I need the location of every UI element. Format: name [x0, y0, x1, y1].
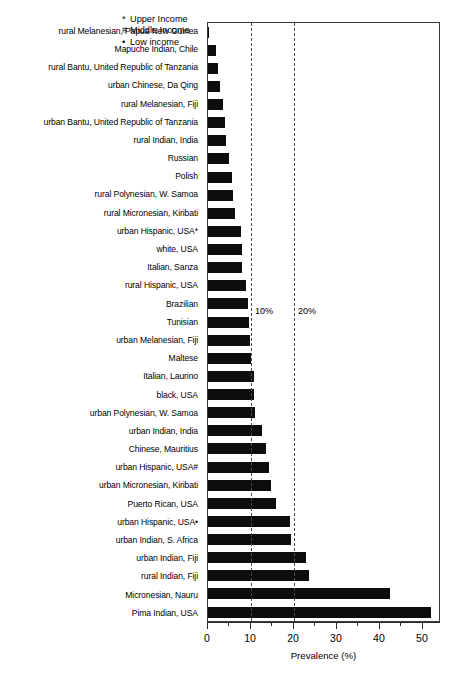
bar-row — [208, 349, 439, 367]
category-label: Italian, Sanza — [0, 258, 203, 276]
bar — [208, 81, 220, 92]
category-label: Polish — [0, 168, 203, 186]
bar-row — [208, 603, 439, 621]
bar-row — [208, 222, 439, 240]
category-label: rural Hispanic, USA — [0, 277, 203, 295]
plot-area: 10%20% — [207, 22, 440, 622]
bar-row — [208, 259, 439, 277]
bar — [208, 280, 246, 291]
category-label: rural Indian, India — [0, 131, 203, 149]
legend-label: Upper Income — [130, 14, 188, 24]
category-label: white, USA — [0, 240, 203, 258]
category-label: urban Bantu, United Republic of Tanzania — [0, 113, 203, 131]
bar — [208, 244, 242, 255]
x-tick — [250, 622, 251, 629]
bar — [208, 262, 242, 273]
x-axis-title: Prevalence (%) — [207, 650, 440, 661]
legend-item: #Middle Income — [122, 25, 190, 36]
bar — [208, 407, 255, 418]
category-label: Micronesian, Nauru — [0, 586, 203, 604]
bar — [208, 371, 254, 382]
reference-line — [251, 23, 252, 621]
category-axis-labels: rural Melanesian, Papua New GuineaMapuch… — [0, 22, 203, 622]
x-tick-label: 0 — [204, 632, 210, 644]
category-label: Italian, Laurino — [0, 368, 203, 386]
category-label: urban Indian, S. Africa — [0, 531, 203, 549]
category-label: urban Melanesian, Fiji — [0, 331, 203, 349]
legend-marker-icon: # — [122, 25, 130, 36]
bar — [208, 99, 223, 110]
x-tick-minor — [228, 622, 229, 626]
category-label: Maltese — [0, 349, 203, 367]
bar-row — [208, 295, 439, 313]
bar-row — [208, 150, 439, 168]
x-tick — [293, 622, 294, 629]
category-label: rural Bantu, United Republic of Tanzania — [0, 58, 203, 76]
bar-row — [208, 476, 439, 494]
bar — [208, 335, 250, 346]
category-label: black, USA — [0, 386, 203, 404]
bar — [208, 63, 218, 74]
bar-row — [208, 277, 439, 295]
x-tick-label: 40 — [373, 632, 385, 644]
category-label: urban Micronesian, Kiribati — [0, 477, 203, 495]
bar — [208, 27, 209, 38]
x-tick-minor — [271, 622, 272, 626]
bar-row — [208, 531, 439, 549]
category-label: Russian — [0, 149, 203, 167]
x-axis-line — [207, 622, 440, 623]
bar — [208, 226, 241, 237]
x-tick-label: 50 — [416, 632, 428, 644]
bar — [208, 317, 249, 328]
legend-item: •Low income — [122, 37, 190, 48]
bar — [208, 552, 306, 563]
x-tick-label: 20 — [287, 632, 299, 644]
bar-row — [208, 549, 439, 567]
bar-row — [208, 331, 439, 349]
category-label: Chinese, Mauritius — [0, 440, 203, 458]
legend-label: Low income — [130, 37, 179, 47]
category-label: urban Indian, Fiji — [0, 549, 203, 567]
bar-row — [208, 440, 439, 458]
category-label: Pima Indian, USA — [0, 604, 203, 622]
bar-row — [208, 204, 439, 222]
bar — [208, 117, 225, 128]
bar-row — [208, 23, 439, 41]
bar-row — [208, 241, 439, 259]
bar — [208, 153, 229, 164]
category-label: urban Indian, India — [0, 422, 203, 440]
bar-row — [208, 132, 439, 150]
bar-row — [208, 41, 439, 59]
x-tick — [379, 622, 380, 629]
x-tick-minor — [314, 622, 315, 626]
category-label: urban Polynesian, W. Samoa — [0, 404, 203, 422]
bar — [208, 462, 269, 473]
bar — [208, 480, 271, 491]
bar-row — [208, 77, 439, 95]
x-tick-label: 30 — [330, 632, 342, 644]
bar — [208, 443, 266, 454]
bar — [208, 389, 254, 400]
x-tick-minor — [400, 622, 401, 626]
x-tick — [207, 622, 208, 629]
category-label: urban Hispanic, USA# — [0, 459, 203, 477]
legend-item: *Upper Income — [122, 14, 190, 25]
category-label: rural Polynesian, W. Samoa — [0, 186, 203, 204]
category-label: urban Hispanic, USA• — [0, 513, 203, 531]
legend-marker-icon: • — [122, 37, 130, 48]
category-label: Tunisian — [0, 313, 203, 331]
bar-row — [208, 367, 439, 385]
reference-line-label: 10% — [255, 306, 273, 316]
x-tick — [336, 622, 337, 629]
bar-row — [208, 313, 439, 331]
category-label: urban Chinese, Da Qing — [0, 77, 203, 95]
bar-row — [208, 585, 439, 603]
bar — [208, 534, 291, 545]
x-tick-label: 10 — [244, 632, 256, 644]
bar-row — [208, 168, 439, 186]
x-tick-minor — [357, 622, 358, 626]
x-tick — [422, 622, 423, 629]
bar — [208, 208, 235, 219]
category-label: rural Micronesian, Kiribati — [0, 204, 203, 222]
bar — [208, 607, 431, 618]
